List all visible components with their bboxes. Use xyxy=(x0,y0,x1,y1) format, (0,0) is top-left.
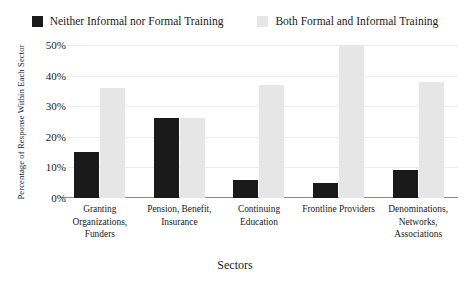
bar-group xyxy=(378,45,458,198)
bar xyxy=(339,45,364,198)
bar xyxy=(313,183,338,198)
legend-swatch-dark xyxy=(32,16,43,27)
x-axis-category-label: Granting Organizations, Funders xyxy=(60,203,140,241)
bar xyxy=(233,180,258,198)
y-axis-tick-label: 10% xyxy=(2,162,66,173)
x-axis-category-label: Continuing Education xyxy=(219,203,299,241)
bar xyxy=(100,88,125,198)
y-axis-tick-label: 0% xyxy=(2,193,66,204)
y-axis-title: Percentage of Response Within Each Secto… xyxy=(14,44,28,200)
bar xyxy=(393,170,418,198)
chart-legend: Neither Informal nor Formal Training Bot… xyxy=(0,16,470,28)
bar xyxy=(154,118,179,198)
bar-group xyxy=(219,45,299,198)
x-axis-category-label: Pension, Benefit, Insurance xyxy=(140,203,220,241)
y-axis-tick-label: 50% xyxy=(2,40,66,51)
legend-item-both: Both Formal and Informal Training xyxy=(257,16,438,28)
bar xyxy=(74,152,99,198)
legend-swatch-light xyxy=(257,16,268,27)
plot-area xyxy=(60,45,458,198)
bar xyxy=(180,118,205,198)
legend-label-both: Both Formal and Informal Training xyxy=(275,16,438,28)
y-axis-tick-label: 40% xyxy=(2,70,66,81)
y-axis-tick-label: 20% xyxy=(2,131,66,142)
y-axis-tick-label: 30% xyxy=(2,101,66,112)
bar xyxy=(259,85,284,198)
bar xyxy=(419,82,444,198)
x-axis-category-label: Frontline Providers xyxy=(299,203,379,241)
x-axis-title: Sectors xyxy=(0,258,470,273)
bar-group xyxy=(299,45,379,198)
bar-groups xyxy=(60,45,458,198)
y-axis-title-text: Percentage of Response Within Each Secto… xyxy=(16,44,26,199)
legend-item-neither: Neither Informal nor Formal Training xyxy=(32,16,224,28)
bar-group xyxy=(140,45,220,198)
bar-group xyxy=(60,45,140,198)
x-axis-category-label: Denominations, Networks, Associations xyxy=(378,203,458,241)
x-axis-category-labels: Granting Organizations, FundersPension, … xyxy=(60,203,458,241)
bar-chart: Neither Informal nor Formal Training Bot… xyxy=(0,0,470,283)
legend-label-neither: Neither Informal nor Formal Training xyxy=(50,16,224,28)
